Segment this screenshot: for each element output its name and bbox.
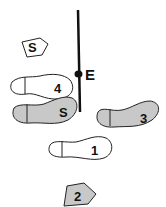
footprint-label: S xyxy=(28,40,37,55)
footprint-label: 3 xyxy=(140,111,147,126)
footprint-s-left: S xyxy=(13,97,77,123)
footprint-label: 4 xyxy=(54,81,62,96)
footprint-label: S xyxy=(59,105,68,120)
axis-label-e: E xyxy=(85,66,95,83)
step-diagram: E S 4 S 3 1 2 xyxy=(0,0,166,207)
axis-line xyxy=(78,10,80,112)
footprint-3: 3 xyxy=(97,101,159,127)
footprint-label: 1 xyxy=(91,143,98,158)
footprint-4: 4 xyxy=(11,74,73,99)
footprint-label: 2 xyxy=(74,189,81,204)
axis-marker-dot xyxy=(75,71,83,78)
footprint-2: 2 xyxy=(64,183,96,206)
footprint-s-top: S xyxy=(22,38,48,57)
footprint-1: 1 xyxy=(49,137,112,160)
